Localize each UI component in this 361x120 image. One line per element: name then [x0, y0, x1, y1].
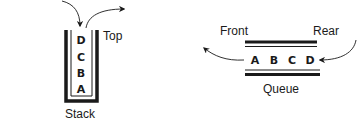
stack-queue-diagram: D C B A Top Stack A B C D Front Rear Que… [0, 0, 361, 120]
stack-item: B [77, 67, 85, 80]
queue-item: B [270, 54, 278, 67]
stack-item: D [76, 34, 85, 47]
push-arrow-icon [62, 1, 80, 26]
queue-item: C [288, 54, 296, 67]
enqueue-arrow-icon [320, 40, 356, 60]
stack-item: A [77, 83, 86, 96]
stack: D C B A Top Stack [62, 1, 124, 120]
stack-item: C [77, 51, 85, 64]
queue-item: A [251, 54, 260, 67]
queue: A B C D Front Rear Queue [204, 24, 356, 96]
stack-top-label: Top [103, 29, 123, 43]
queue-front-label: Front [220, 24, 249, 38]
queue-item: D [305, 54, 314, 67]
dequeue-arrow-icon [204, 48, 244, 60]
queue-rear-label: Rear [313, 24, 339, 38]
queue-label: Queue [263, 82, 299, 96]
stack-label: Stack [65, 107, 96, 120]
pop-arrow-icon [86, 9, 124, 28]
